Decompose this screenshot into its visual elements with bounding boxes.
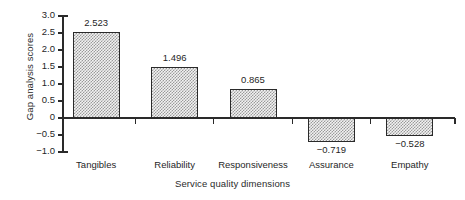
- bar: [386, 118, 433, 136]
- y-tick-label: −0.5: [15, 128, 55, 139]
- bar: [308, 118, 355, 142]
- y-tick-label: 2.5: [15, 26, 55, 37]
- bar-value-label: 2.523: [61, 17, 131, 28]
- gap-analysis-bar-chart: Gap analysis scores Service quality dime…: [0, 0, 465, 200]
- y-tick-label: 3.0: [15, 9, 55, 20]
- bar-value-label: −0.719: [296, 144, 366, 155]
- bar: [73, 32, 120, 118]
- y-tick-label: 0.5: [15, 94, 55, 105]
- y-tick-label: −1.0: [15, 145, 55, 156]
- bar-value-label: −0.528: [375, 138, 445, 149]
- plot-area: 3.02.52.01.51.00.50−0.5−1.0 2.5231.4960.…: [0, 0, 465, 200]
- bar-value-label: 0.865: [218, 74, 288, 85]
- y-tick-label: 0: [15, 111, 55, 122]
- y-tick-label: 2.0: [15, 43, 55, 54]
- bar-value-label: 1.496: [140, 52, 210, 63]
- bar: [230, 89, 277, 118]
- bar: [151, 67, 198, 118]
- y-tick-label: 1.0: [15, 77, 55, 88]
- y-tick-label: 1.5: [15, 60, 55, 71]
- x-category-label: Empathy: [355, 159, 465, 170]
